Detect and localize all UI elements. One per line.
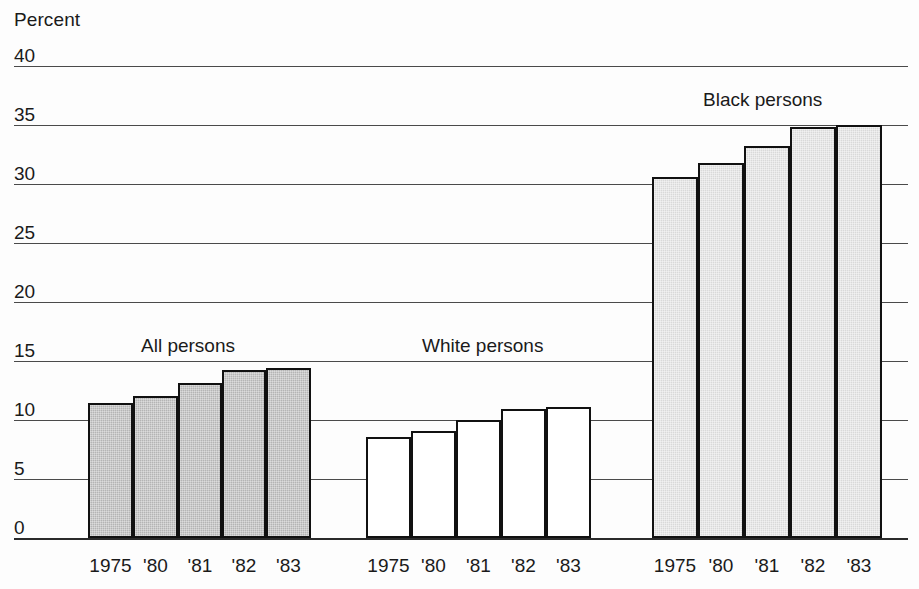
x-axis-tick-label-1-3: '82	[501, 556, 546, 575]
chart-container: Percent 40353025201510501975'80'81'82'83…	[0, 0, 919, 589]
bar-0-1	[133, 396, 178, 538]
series-label-1: White persons	[422, 336, 543, 355]
bar-2-4	[836, 125, 882, 538]
x-axis-tick-label-1-1: '80	[411, 556, 456, 575]
bar-1-0	[366, 437, 411, 538]
y-axis-tick-label-30: 30	[14, 164, 35, 183]
x-axis-tick-label-2-1: '80	[698, 556, 744, 575]
plot-area: 40353025201510501975'80'81'82'831975'80'…	[0, 0, 919, 589]
bar-2-3	[790, 127, 836, 538]
gridline-0	[14, 538, 908, 540]
bar-0-3	[222, 370, 266, 538]
y-axis-tick-label-25: 25	[14, 223, 35, 242]
x-axis-tick-label-0-3: '82	[222, 556, 266, 575]
x-axis-tick-label-1-0: 1975	[366, 556, 411, 575]
y-axis-tick-label-15: 15	[14, 341, 35, 360]
bar-1-3	[501, 409, 546, 538]
x-axis-tick-label-0-0: 1975	[88, 556, 133, 575]
gridline-35	[14, 125, 908, 126]
x-axis-tick-label-1-2: '81	[456, 556, 501, 575]
x-axis-tick-label-2-4: '83	[836, 556, 882, 575]
x-axis-tick-label-2-0: 1975	[652, 556, 698, 575]
y-axis-tick-label-35: 35	[14, 105, 35, 124]
bar-0-4	[266, 368, 311, 538]
series-label-0: All persons	[141, 336, 235, 355]
x-axis-tick-label-2-2: '81	[744, 556, 790, 575]
bar-2-0	[652, 177, 698, 538]
x-axis-tick-label-0-1: '80	[133, 556, 178, 575]
bar-1-1	[411, 431, 456, 538]
x-axis-tick-label-0-4: '83	[266, 556, 311, 575]
y-axis-tick-label-10: 10	[14, 400, 35, 419]
bar-2-1	[698, 163, 744, 538]
y-axis-tick-label-5: 5	[14, 459, 25, 478]
bar-2-2	[744, 146, 790, 538]
gridline-40	[14, 66, 908, 67]
y-axis-tick-label-0: 0	[14, 518, 25, 537]
x-axis-tick-label-1-4: '83	[546, 556, 591, 575]
bar-0-2	[178, 383, 222, 538]
series-label-2: Black persons	[703, 90, 822, 109]
bar-0-0	[88, 403, 133, 538]
y-axis-tick-label-20: 20	[14, 282, 35, 301]
y-axis-tick-label-40: 40	[14, 46, 35, 65]
bar-1-2	[456, 420, 501, 538]
x-axis-tick-label-0-2: '81	[178, 556, 222, 575]
x-axis-tick-label-2-3: '82	[790, 556, 836, 575]
bar-1-4	[546, 407, 591, 538]
